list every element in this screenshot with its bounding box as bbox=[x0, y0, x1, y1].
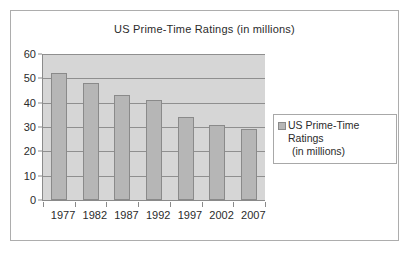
bar bbox=[146, 100, 162, 200]
x-axis-tick-label: 1982 bbox=[83, 209, 99, 221]
x-axis-tick-mark bbox=[75, 202, 76, 207]
y-axis-tick-label: 50 bbox=[24, 72, 36, 84]
x-axis-tick-label: 1987 bbox=[114, 209, 130, 221]
y-axis-tick-label: 30 bbox=[24, 121, 36, 133]
x-axis-tick-label: 2007 bbox=[241, 209, 257, 221]
x-axis-ticks bbox=[43, 202, 265, 207]
legend-item: US Prime-Time Ratings (in millions) bbox=[278, 119, 391, 158]
bar bbox=[241, 129, 257, 200]
chart-legend: US Prime-Time Ratings (in millions) bbox=[273, 114, 397, 164]
x-axis-tick-mark bbox=[170, 202, 171, 207]
bar-series bbox=[43, 54, 265, 200]
y-axis-tick-label: 20 bbox=[24, 145, 36, 157]
x-axis-tick-label: 1997 bbox=[178, 209, 194, 221]
x-axis-tick-mark bbox=[265, 202, 266, 207]
chart-title: US Prime-Time Ratings (in millions) bbox=[11, 23, 398, 35]
y-axis-tick-label: 40 bbox=[24, 97, 36, 109]
chart-frame: US Prime-Time Ratings (in millions) 6050… bbox=[10, 10, 399, 241]
legend-swatch-icon bbox=[278, 122, 286, 130]
x-axis-tick-mark bbox=[202, 202, 203, 207]
bar bbox=[114, 95, 130, 200]
x-axis-tick-label: 2002 bbox=[209, 209, 225, 221]
bar bbox=[51, 73, 67, 200]
legend-label-line1: US Prime-Time Ratings bbox=[288, 119, 359, 144]
x-axis-labels: 1977198219871992199720022007 bbox=[43, 209, 265, 221]
y-axis-tick-label: 60 bbox=[24, 48, 36, 60]
x-axis-tick-mark bbox=[138, 202, 139, 207]
x-axis-tick-label: 1992 bbox=[146, 209, 162, 221]
x-axis-tick-mark bbox=[43, 202, 44, 207]
x-axis-tick-mark bbox=[233, 202, 234, 207]
x-axis-tick-mark bbox=[106, 202, 107, 207]
bar bbox=[209, 125, 225, 200]
bar bbox=[178, 117, 194, 200]
x-axis: 1977198219871992199720022007 bbox=[43, 202, 265, 226]
legend-label: US Prime-Time Ratings (in millions) bbox=[288, 119, 391, 158]
y-axis: 6050403020100 bbox=[11, 54, 42, 201]
y-axis-tick-label: 0 bbox=[30, 194, 36, 206]
x-axis-tick-label: 1977 bbox=[51, 209, 67, 221]
bar bbox=[83, 83, 99, 200]
plot-area bbox=[42, 54, 265, 201]
legend-label-line2: (in millions) bbox=[288, 145, 345, 157]
y-axis-tick-label: 10 bbox=[24, 170, 36, 182]
